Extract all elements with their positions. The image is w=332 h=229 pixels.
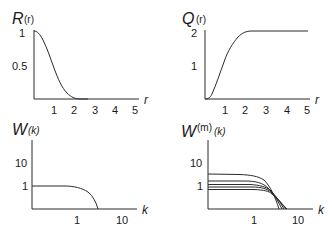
ytick-1: 1 <box>197 180 203 192</box>
xtick-10: 10 <box>116 214 128 226</box>
q-title-arg: (r) <box>196 14 206 25</box>
ytick-1: 1 <box>22 180 28 192</box>
ytick-1: 1 <box>191 60 197 72</box>
ytick-10: 10 <box>190 157 202 169</box>
w-title-arg: (k) <box>28 125 40 136</box>
ytick-10: 10 <box>15 157 27 169</box>
xtick-2: 2 <box>71 104 77 116</box>
x-label-k: k <box>318 203 325 217</box>
xtick-1: 1 <box>222 104 228 116</box>
ytick-1: 1 <box>19 27 25 39</box>
x-label-r: r <box>144 93 149 107</box>
xtick-5: 5 <box>132 104 138 116</box>
q-title: Q <box>182 10 194 27</box>
r-title: R <box>12 10 24 27</box>
wm-title-sup: (m) <box>197 122 212 133</box>
xtick-1: 1 <box>251 214 257 226</box>
ytick-2: 2 <box>191 27 197 39</box>
r-title-arg: (r) <box>24 14 34 25</box>
xtick-3: 3 <box>263 104 269 116</box>
w-title: W <box>12 121 29 138</box>
x-label-k: k <box>142 203 149 217</box>
xtick-3: 3 <box>92 104 98 116</box>
xtick-10: 10 <box>292 214 304 226</box>
wm-title-arg: (k) <box>214 126 226 137</box>
ytick-0-5: 0.5 <box>12 60 27 72</box>
text-layer: R (r) 1 0.5 1 2 3 4 5 r Q (r) 2 1 1 2 3 … <box>0 0 332 229</box>
xtick-4: 4 <box>112 104 118 116</box>
xtick-1: 1 <box>51 104 57 116</box>
xtick-5: 5 <box>304 104 310 116</box>
xtick-4: 4 <box>284 104 290 116</box>
xtick-1: 1 <box>74 214 80 226</box>
x-label-r: r <box>315 93 320 107</box>
wm-title: W <box>181 123 198 140</box>
xtick-2: 2 <box>242 104 248 116</box>
